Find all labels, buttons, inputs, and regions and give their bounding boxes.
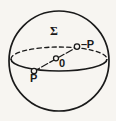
origin-label: 0 (59, 58, 65, 69)
point-label-p: P (30, 73, 37, 84)
sphere-diagram-figure: Σ –P 0 P (0, 0, 116, 121)
antipodal-point-label: –P (81, 39, 94, 50)
point-marker-neg-p (74, 44, 79, 49)
surface-label-sigma: Σ (50, 25, 58, 37)
point-marker-origin (54, 56, 59, 61)
sphere-diagram-canvas (0, 0, 116, 121)
